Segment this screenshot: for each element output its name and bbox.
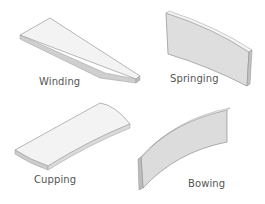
springing-label: Springing <box>170 73 219 84</box>
winding-board-illustration <box>20 18 140 83</box>
winding-label: Winding <box>39 76 80 87</box>
bowing-label: Bowing <box>188 178 225 189</box>
cupping-label: Cupping <box>34 174 76 185</box>
warping-diagram: Winding Springing Cupping Bowing <box>0 0 265 204</box>
cupping-board-illustration <box>15 103 130 170</box>
